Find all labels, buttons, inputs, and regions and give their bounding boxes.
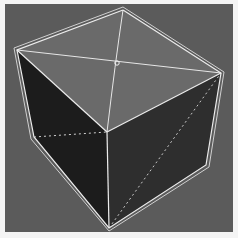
3d-viewport[interactable] <box>5 4 233 232</box>
viewport-frame <box>0 0 238 238</box>
scene-canvas[interactable] <box>5 4 233 232</box>
